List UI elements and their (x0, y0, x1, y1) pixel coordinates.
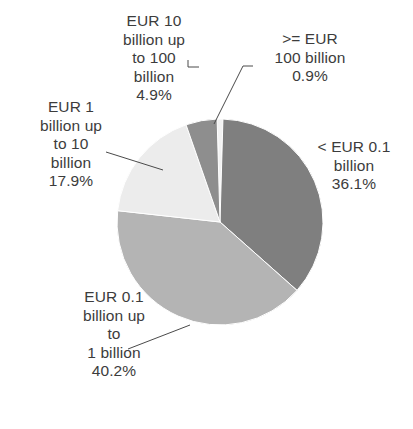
slice-label-eur-10-to-100-billion: EUR 10 billion up to 100 billion 4.9% (96, 12, 212, 105)
pie-chart: EUR 10 billion up to 100 billion 4.9% >=… (0, 0, 413, 429)
slice-label-lt-eur-0-1-billion: < EUR 0.1 billion 36.1% (296, 138, 412, 194)
slice-label-eur-0-1-to-1-billion: EUR 0.1 billion up to 1 billion 40.2% (52, 288, 176, 381)
slice-label-gte-eur-100-billion: >= EUR 100 billion 0.9% (248, 30, 372, 86)
slice-label-eur-1-to-10-billion: EUR 1 billion up to 10 billion 17.9% (12, 98, 130, 191)
